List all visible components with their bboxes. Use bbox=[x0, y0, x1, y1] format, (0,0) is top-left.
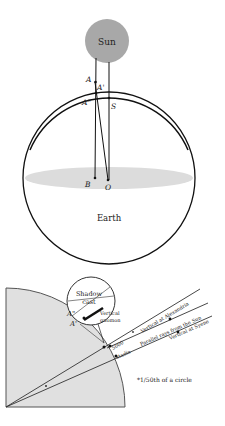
distance-stadia-label: stadia bbox=[115, 348, 131, 360]
point-O bbox=[107, 179, 110, 182]
sun-label: Sun bbox=[98, 37, 116, 47]
vertical-label: Vertical bbox=[99, 310, 120, 316]
point-A-prime bbox=[95, 92, 98, 95]
label-A: A bbox=[85, 75, 92, 84]
a-prime-label: A' bbox=[69, 320, 77, 328]
gnomon-label: gnomon bbox=[100, 317, 121, 324]
point-S bbox=[108, 97, 111, 100]
label-A-double-prime: A" bbox=[81, 98, 91, 107]
a-double-prime-label: A" bbox=[66, 310, 75, 318]
angle-note: *1/50th of a circle bbox=[137, 376, 192, 383]
bottom-diagram: Shadow cast Vertical gnomon A" A' Vertic… bbox=[6, 277, 212, 407]
cast-label: cast bbox=[82, 298, 96, 306]
label-A-prime: A' bbox=[96, 83, 104, 92]
ray-arrow-1 bbox=[169, 318, 172, 321]
eratosthenes-diagram: Sun A A' A" S B O Earth bbox=[0, 0, 225, 426]
distance-5000-label: 5000 bbox=[110, 339, 124, 351]
top-diagram: Sun A A' A" S B O Earth bbox=[23, 19, 195, 264]
label-O: O bbox=[105, 183, 111, 192]
label-B: B bbox=[84, 180, 91, 189]
earth-label: Earth bbox=[97, 213, 122, 223]
label-S: S bbox=[111, 102, 116, 111]
shadow-label: Shadow bbox=[76, 290, 103, 298]
point-B bbox=[94, 177, 97, 180]
